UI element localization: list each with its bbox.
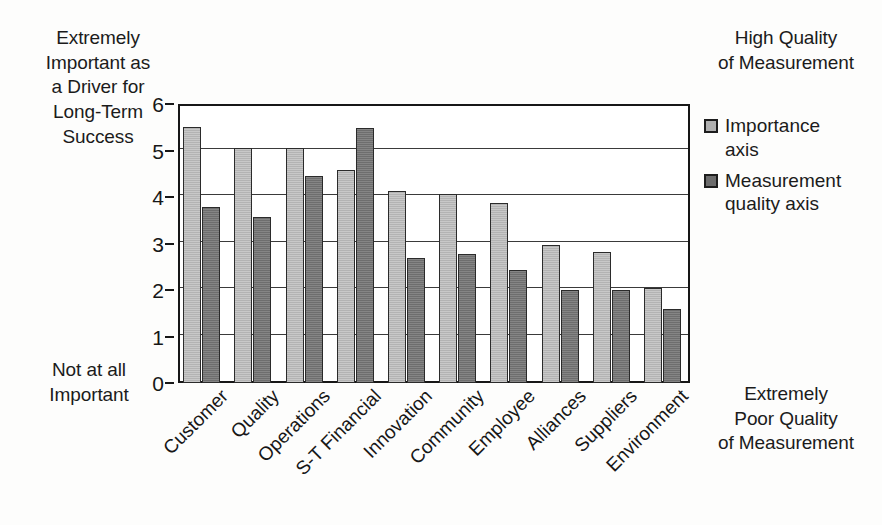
y-tick-mark-5 (165, 150, 174, 152)
y-tick-mark-3 (165, 243, 174, 245)
annotation-top-right: High Quality of Measurement (700, 26, 872, 75)
y-tick-mark-2 (165, 289, 174, 291)
gridline-2 (180, 287, 688, 288)
y-tick-label-1: 1 (152, 326, 164, 347)
x-axis: CustomerQualityOperationsS-T FinancialIn… (178, 386, 690, 521)
legend-item: Importance axis (704, 114, 878, 162)
y-tick-label-2: 2 (152, 280, 164, 301)
gridline-3 (180, 241, 688, 242)
annotation-bottom-right: Extremely Poor Quality of Measurement (698, 382, 874, 456)
legend: Importance axisMeasurement quality axis (704, 114, 878, 223)
y-tick-mark-0 (165, 382, 174, 384)
legend-item: Measurement quality axis (704, 169, 878, 217)
plot-area (178, 104, 690, 383)
legend-swatch-icon (704, 174, 718, 188)
y-tick-label-3: 3 (152, 233, 164, 254)
y-tick-label-4: 4 (152, 187, 164, 208)
y-tick-mark-4 (165, 196, 174, 198)
gridline-1 (180, 334, 688, 335)
y-tick-mark-1 (165, 336, 174, 338)
x-tick-label: Customer (159, 386, 231, 458)
y-tick-label-0: 0 (152, 373, 164, 394)
y-tick-mark-6 (165, 103, 174, 105)
gridline-5 (180, 148, 688, 149)
y-tick-label-6: 6 (152, 94, 164, 115)
y-axis: 0123456 (140, 104, 174, 383)
legend-label: Measurement quality axis (725, 169, 841, 217)
gridline-4 (180, 194, 688, 195)
chart-canvas: Extremely Important as a Driver for Long… (0, 0, 882, 525)
legend-swatch-icon (704, 119, 718, 133)
y-tick-label-5: 5 (152, 140, 164, 161)
legend-label: Importance axis (725, 114, 820, 162)
